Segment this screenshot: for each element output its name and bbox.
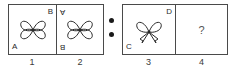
puzzle-cell-4-answer[interactable]: ?	[175, 5, 227, 54]
cell-3-label-bottom-left: C	[126, 43, 132, 51]
question-mark-placeholder: ?	[176, 5, 227, 54]
cell-3-label-top-right: D	[166, 8, 172, 16]
four-petal-flower-icon	[16, 14, 50, 46]
separator-dot-bottom	[109, 32, 114, 37]
figure-analogy-puzzle: B A A B	[0, 0, 235, 73]
caption-cell-1: 1	[8, 58, 56, 67]
left-pair-frame: B A A B	[8, 4, 104, 55]
separator-dot-top	[109, 18, 114, 23]
caption-cell-2: 2	[56, 58, 104, 67]
puzzle-cell-1[interactable]: B A	[9, 5, 56, 54]
puzzle-cell-3[interactable]: D C	[123, 5, 175, 54]
caption-cell-3: 3	[122, 58, 175, 67]
right-pair-frame: D C ?	[122, 4, 228, 55]
four-petal-flower-rotated-icon	[63, 14, 97, 46]
puzzle-cell-2[interactable]: A B	[56, 5, 103, 54]
two-dots-analogy-separator-icon	[108, 18, 117, 40]
butterfly-icon	[132, 14, 166, 46]
caption-cell-4: 4	[175, 58, 228, 67]
